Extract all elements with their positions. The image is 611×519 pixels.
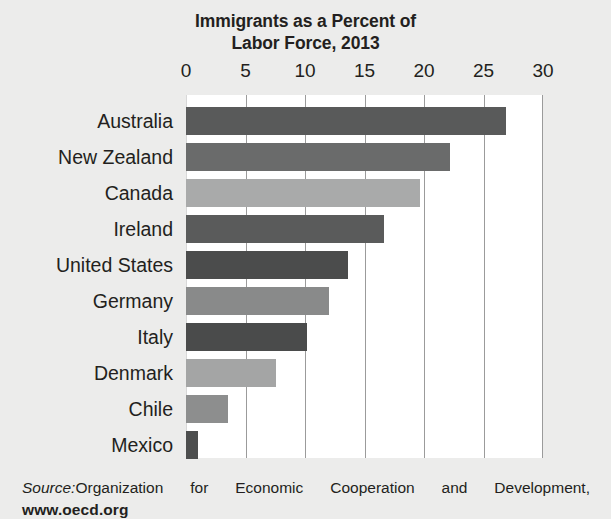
bar-italy xyxy=(186,323,307,351)
bar-new-zealand xyxy=(186,143,450,171)
gridline-30 xyxy=(542,95,543,458)
y-label-ireland: Ireland xyxy=(0,215,180,243)
bar-canada xyxy=(186,179,420,207)
bar-germany xyxy=(186,287,329,315)
source-label: Source: xyxy=(22,479,75,496)
y-label-mexico: Mexico xyxy=(0,431,180,459)
bar-chile xyxy=(186,395,228,423)
source-note: Source:Organization for Economic Coopera… xyxy=(22,477,590,519)
x-tick-label-0: 0 xyxy=(181,59,192,83)
x-tick-label-20: 20 xyxy=(413,59,434,83)
gridline-25 xyxy=(484,95,485,458)
y-label-new-zealand: New Zealand xyxy=(0,143,180,171)
source-text: Organization for Economic Cooperation an… xyxy=(75,479,590,496)
y-label-canada: Canada xyxy=(0,179,180,207)
bar-australia xyxy=(186,107,506,135)
bar-united-states xyxy=(186,251,348,279)
x-tick-label-30: 30 xyxy=(532,59,553,83)
y-label-united-states: United States xyxy=(0,251,180,279)
x-tick-label-10: 10 xyxy=(294,59,315,83)
bar-chart: 0 5 10 15 20 25 30 Australia New Zealand… xyxy=(0,0,611,470)
bar-ireland xyxy=(186,215,384,243)
x-axis-tick-labels: 0 5 10 15 20 25 30 xyxy=(0,59,611,85)
x-tick-label-5: 5 xyxy=(240,59,251,83)
plot-area xyxy=(186,95,543,458)
source-url: www.oecd.org xyxy=(22,499,590,519)
y-label-italy: Italy xyxy=(0,323,180,351)
bar-denmark xyxy=(186,359,276,387)
x-tick-label-25: 25 xyxy=(473,59,494,83)
y-label-germany: Germany xyxy=(0,287,180,315)
y-axis-category-labels: Australia New Zealand Canada Ireland Uni… xyxy=(0,95,180,458)
bar-mexico xyxy=(186,431,198,459)
y-label-chile: Chile xyxy=(0,395,180,423)
source-note-line-1: Source:Organization for Economic Coopera… xyxy=(22,477,590,499)
y-label-denmark: Denmark xyxy=(0,359,180,387)
x-tick-label-15: 15 xyxy=(354,59,375,83)
y-label-australia: Australia xyxy=(0,107,180,135)
